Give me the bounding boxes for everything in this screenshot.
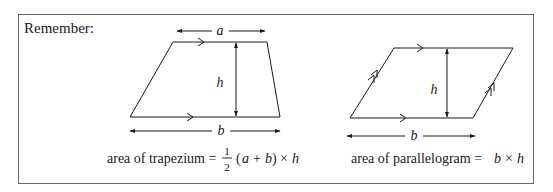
times-sign: × [280,151,288,166]
fraction-denominator: 2 [224,161,230,173]
plus-sign: + [253,151,261,166]
var-b: b [494,151,501,166]
open-paren: ( [236,151,241,167]
formula-prefix: area of trapezium = [107,151,216,166]
parallelogram-height-label: h [431,82,438,97]
var-a: a [242,151,249,166]
trapezium-figure [130,31,280,131]
var-b: b [265,151,272,166]
trapezium-top-label: a [217,23,224,38]
close-paren: ) [272,151,277,167]
heading: Remember: [24,20,94,36]
times-sign: × [505,151,513,166]
trapezium-height-label: h [217,75,224,90]
formula-prefix: area of parallelogram = [351,151,482,166]
var-h: h [292,151,299,166]
parallelogram-bottom-label: b [411,128,418,143]
trapezium-bottom-label: b [218,123,225,138]
trapezium-formula: area of trapezium = 1 2 ( a + b ) × h [107,145,299,173]
fraction-numerator: 1 [224,145,230,157]
diagram-canvas: Remember: a h b area of trapezium = 1 2 … [0,0,553,192]
var-h: h [517,151,524,166]
parallelogram-formula: area of parallelogram = b × h [351,151,524,166]
